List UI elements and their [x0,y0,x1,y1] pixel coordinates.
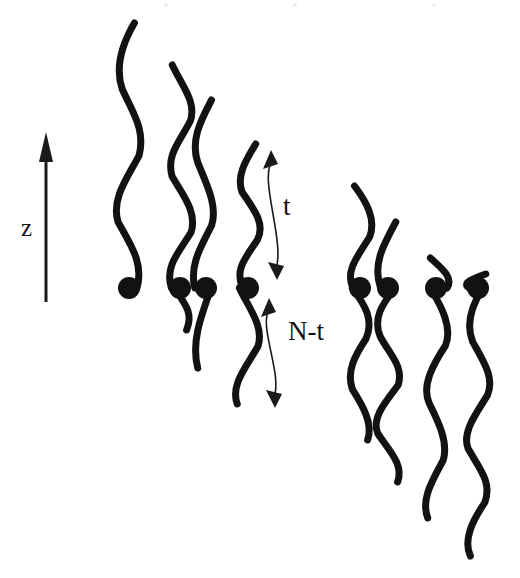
z-axis-label: z [21,214,32,241]
t-segment-label: t [283,191,291,221]
t-segment-arrowhead-down [268,262,284,280]
annotation-t-segment: t [263,150,291,280]
polymer-chain-lower-6 [376,288,400,482]
polymer-chain-upper-5 [350,186,371,288]
polymer-chain-upper-3 [193,100,213,288]
polymer-chain-upper-4 [240,144,260,288]
scan-speck [164,3,168,7]
figure-canvas: z tN-t [0,0,520,578]
junction-dot-6 [377,277,399,299]
junction-dot-2 [169,277,191,299]
polymer-chain-lower-8 [466,288,489,556]
scan-artifact-group [127,3,436,28]
junction-dot-3 [195,277,217,299]
segment-annotation-group: tN-t [261,150,324,408]
scan-speck [293,3,297,7]
polymer-chain-upper-2 [170,65,193,288]
n-minus-t-segment-label: N-t [288,316,324,346]
t-segment-shaft [268,161,278,269]
polymer-chain-lower-7 [426,288,448,518]
polymer-chain-lower-3 [196,288,212,368]
z-axis-arrowhead [39,132,53,162]
polymer-chain-lower-4 [236,288,260,404]
junction-dot-7 [425,277,447,299]
diagram-svg: z tN-t [0,0,520,578]
polymer-chain-upper-1 [116,23,141,288]
annotation-n-minus-t-segment: N-t [261,298,324,408]
n-minus-t-segment-shaft [266,309,276,397]
junction-dot-1 [118,277,140,299]
scan-speck [432,3,435,6]
polymer-chain-lower-5 [350,288,369,440]
n-minus-t-segment-arrowhead-up [261,298,276,317]
junction-dot-5 [349,277,371,299]
z-axis: z [21,132,53,302]
t-segment-arrowhead-up [263,150,278,169]
n-minus-t-segment-arrowhead-down [266,390,282,408]
junction-dot-4 [237,277,259,299]
junction-dot-group [118,277,489,299]
junction-dot-8 [467,277,489,299]
